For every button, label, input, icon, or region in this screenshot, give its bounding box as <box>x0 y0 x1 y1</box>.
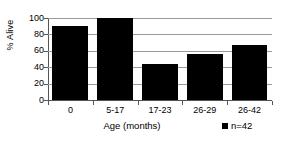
bar-slot <box>182 18 227 100</box>
x-tick-mark-3 <box>182 101 183 105</box>
chart-legend: n=42 <box>222 121 252 131</box>
y-tick-mark-40 <box>44 67 48 68</box>
plot-area <box>48 18 272 100</box>
bar-0 <box>52 26 88 100</box>
bar-26-42 <box>232 45 268 100</box>
bar-5-17 <box>97 18 133 100</box>
legend-marker-square-icon <box>222 123 228 129</box>
y-tick-label-20: 20 <box>14 79 44 88</box>
legend-entry-label: n=42 <box>231 121 252 131</box>
x-axis-title: Age (months) <box>48 120 216 131</box>
bar-slot <box>227 18 272 100</box>
x-tick-mark-2 <box>138 101 139 105</box>
bar-chart-figure: % Alive 020406080100 05-1717-2326-2926-4… <box>0 0 283 144</box>
x-tick-label-0: 0 <box>48 105 93 116</box>
bar-slot <box>93 18 138 100</box>
y-tick-label-100: 100 <box>14 14 44 23</box>
x-tick-label-5-17: 5-17 <box>93 105 138 116</box>
y-tick-label-60: 60 <box>14 46 44 55</box>
bar-slot <box>48 18 93 100</box>
bar-17-23 <box>142 64 178 100</box>
bar-26-29 <box>187 54 223 100</box>
x-tick-mark-1 <box>93 101 94 105</box>
y-tick-mark-20 <box>44 84 48 85</box>
y-tick-label-0: 0 <box>14 96 44 105</box>
x-tick-label-26-29: 26-29 <box>182 105 227 116</box>
y-tick-mark-60 <box>44 51 48 52</box>
x-tick-mark-0 <box>48 101 49 105</box>
x-tick-label-26-42: 26-42 <box>227 105 272 116</box>
gridline-0 <box>48 100 272 101</box>
x-tick-mark-5 <box>272 101 273 105</box>
y-tick-label-40: 40 <box>14 63 44 72</box>
y-tick-label-80: 80 <box>14 30 44 39</box>
x-axis-tick-labels: 05-1717-2326-2926-42 <box>48 105 272 119</box>
y-tick-mark-100 <box>44 18 48 19</box>
bar-slot <box>138 18 183 100</box>
bars-group <box>48 18 272 100</box>
x-tick-label-17-23: 17-23 <box>138 105 183 116</box>
x-tick-mark-4 <box>227 101 228 105</box>
y-tick-mark-80 <box>44 34 48 35</box>
y-axis-tick-labels: 020406080100 <box>12 0 44 144</box>
